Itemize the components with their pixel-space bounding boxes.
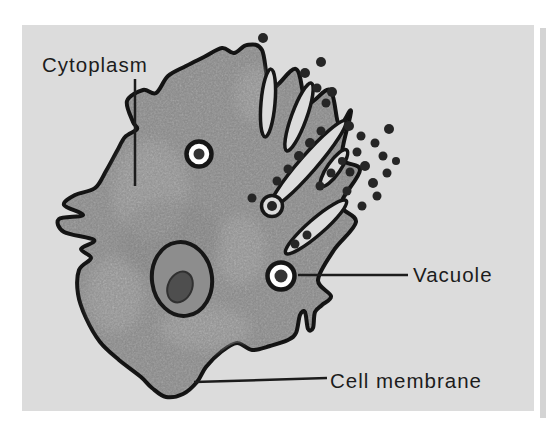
particle [383,169,392,178]
particle [284,165,293,174]
particle [248,194,257,203]
particle [392,157,400,165]
adjacent-panel-edge [540,28,546,418]
particle [357,132,366,141]
vacuole-labeled [268,263,295,290]
particle [338,157,346,165]
particle [316,182,325,191]
cell-membrane-label: Cell membrane [330,369,482,392]
cell-diagram: Cytoplasm Vacuole Cell membrane [0,0,546,435]
particle [267,201,277,211]
particle [291,240,300,249]
vacuole-upper [187,142,212,167]
particle [317,127,326,136]
cytoplasm-label: Cytoplasm [42,53,148,76]
particle [368,178,378,188]
vacuole-label: Vacuole [413,263,493,286]
particle [384,124,394,134]
particle [358,202,367,211]
vacuole-center [275,270,288,283]
vacuole-center [194,149,205,160]
particle [327,87,337,97]
particle [303,231,312,240]
particle [273,177,282,186]
particle [316,57,326,67]
particle [379,152,388,161]
particle [344,121,354,131]
particle [373,192,382,201]
particle [346,168,355,177]
particle [258,33,268,43]
particle [313,84,322,93]
particle [353,148,362,157]
particle [343,187,352,196]
particle [371,139,380,148]
particle [360,161,370,171]
particle [327,169,336,178]
particle [322,99,331,108]
particle [294,151,304,161]
particle [305,138,315,148]
particle [300,68,310,78]
figure-page: Cytoplasm Vacuole Cell membrane [0,0,546,435]
